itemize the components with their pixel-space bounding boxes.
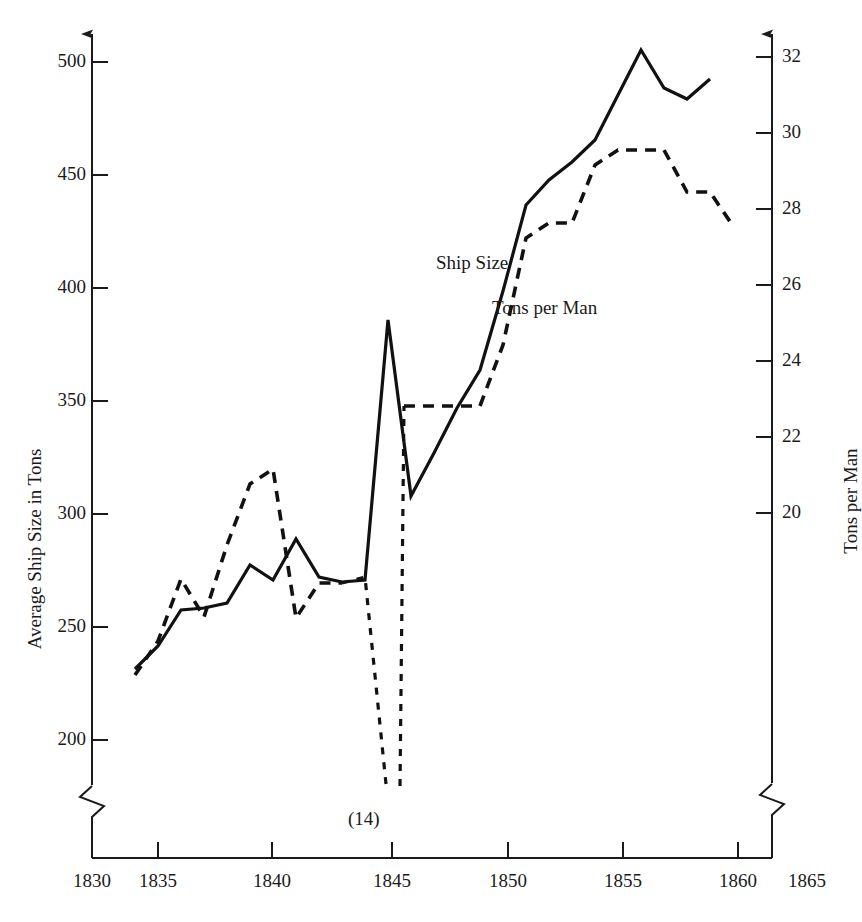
x-axis	[92, 842, 772, 858]
xtick-label-1865: 1865	[772, 870, 842, 892]
y2tick-label-32: 32	[782, 45, 822, 67]
ytick-label-500: 500	[26, 50, 86, 72]
xtick-label-1835: 1835	[123, 870, 193, 892]
xtick-label-1850: 1850	[473, 870, 543, 892]
series-ship-size-line	[135, 50, 710, 669]
xtick-label-1830: 1830	[57, 870, 127, 892]
x-axis-ticks	[158, 842, 738, 858]
y2tick-label-24: 24	[782, 349, 822, 371]
y2tick-label-20: 20	[782, 501, 822, 523]
xtick-label-1840: 1840	[237, 870, 307, 892]
right-axis-ticks	[756, 57, 772, 513]
left-axis-break	[80, 786, 104, 858]
right-axis-break	[760, 784, 784, 858]
ytick-label-200: 200	[26, 728, 86, 750]
ytick-label-400: 400	[26, 276, 86, 298]
xtick-label-1845: 1845	[357, 870, 427, 892]
series-tons-per-man-line-c	[404, 150, 733, 406]
y2tick-label-26: 26	[782, 273, 822, 295]
xtick-label-1855: 1855	[588, 870, 658, 892]
y2-axis-title: Tons per Man	[840, 341, 862, 661]
series-label-ship-size: Ship Size	[436, 252, 508, 274]
series-tons-per-man-offscale-return	[400, 406, 404, 786]
y-axis-title: Average Ship Size in Tons	[24, 389, 46, 709]
left-axis-ticks	[92, 62, 108, 740]
y2tick-label-22: 22	[782, 425, 822, 447]
series-tons-per-man-offscale-dive	[342, 577, 386, 784]
annotation-offscale-14: (14)	[348, 808, 380, 830]
series-tons-per-man-line-a	[135, 469, 342, 675]
xtick-label-1860: 1860	[703, 870, 773, 892]
y2tick-label-28: 28	[782, 197, 822, 219]
ytick-label-450: 450	[26, 163, 86, 185]
series-label-tons-per-man: Tons per Man	[492, 297, 597, 319]
right-axis	[756, 34, 784, 858]
y2tick-label-30: 30	[782, 121, 822, 143]
